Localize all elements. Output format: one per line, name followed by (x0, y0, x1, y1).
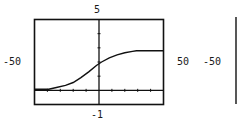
xmin-label: -50 (3, 57, 21, 67)
ymax-label: 5 (94, 5, 100, 15)
graph-screen (0, 0, 237, 121)
second-xmin-label: -50 (203, 57, 221, 67)
xmax-label: 50 (177, 57, 189, 67)
ymin-label: -1 (91, 110, 103, 120)
